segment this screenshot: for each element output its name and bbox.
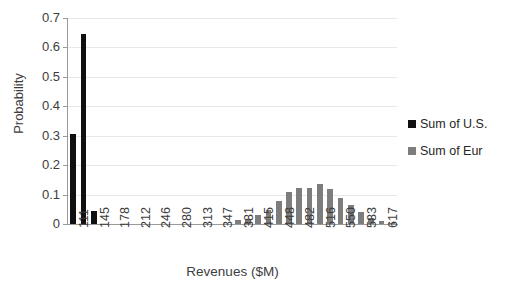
legend-swatch-icon bbox=[408, 147, 416, 155]
bar bbox=[81, 34, 87, 224]
x-axis-tick-label: 246 bbox=[160, 207, 173, 228]
y-axis-tick-label: 0.7 bbox=[4, 11, 60, 24]
y-axis-tick-label: 0 bbox=[4, 217, 60, 230]
x-axis-tick-label: 482 bbox=[304, 207, 317, 228]
bar bbox=[317, 184, 323, 224]
x-axis-tick-label: 280 bbox=[181, 207, 194, 228]
bar bbox=[338, 198, 344, 224]
legend-item[interactable]: Sum of U.S. bbox=[408, 117, 487, 131]
bar bbox=[358, 212, 364, 224]
bar-series-container bbox=[68, 18, 397, 224]
x-axis-tick-label: 347 bbox=[222, 207, 235, 228]
x-axis-tick-label: 212 bbox=[140, 207, 153, 228]
bar bbox=[70, 134, 76, 224]
x-axis-tick-label: 448 bbox=[284, 207, 297, 228]
x-axis-tick-label: 313 bbox=[202, 207, 215, 228]
x-axis-tick-label: 617 bbox=[387, 207, 400, 228]
y-axis-tick-label: 0.1 bbox=[4, 188, 60, 201]
x-axis-tick-label: 111 bbox=[78, 209, 91, 228]
x-axis-tick-label: 516 bbox=[325, 207, 338, 228]
x-axis-tick-labels: 1111451782122462803133473814154484825165… bbox=[68, 226, 397, 268]
y-axis-tickmark bbox=[63, 224, 68, 225]
bar bbox=[379, 221, 385, 224]
x-axis-title: Revenues ($M) bbox=[68, 264, 397, 279]
y-axis-tick-labels: 0.70.60.50.40.30.20.10 bbox=[0, 0, 60, 291]
bar bbox=[255, 215, 261, 224]
x-axis-tick-label: 415 bbox=[263, 207, 276, 228]
legend-swatch-icon bbox=[408, 120, 416, 128]
histogram-chart: 0.70.60.50.40.30.20.10 Probability 11114… bbox=[0, 0, 511, 291]
legend-label: Sum of U.S. bbox=[420, 117, 487, 131]
bar bbox=[296, 188, 302, 224]
bar bbox=[91, 211, 97, 224]
legend-item[interactable]: Sum of Eur bbox=[408, 144, 487, 158]
x-axis-tick-label: 550 bbox=[345, 207, 358, 228]
x-axis-tick-label: 381 bbox=[243, 207, 256, 228]
chart-legend: Sum of U.S.Sum of Eur bbox=[408, 117, 487, 171]
y-axis-title: Probability bbox=[11, 34, 26, 174]
bar bbox=[276, 201, 282, 224]
legend-label: Sum of Eur bbox=[420, 144, 483, 158]
x-axis-tick-label: 178 bbox=[119, 207, 132, 228]
bar bbox=[235, 220, 241, 224]
x-axis-tick-label: 583 bbox=[366, 207, 379, 228]
x-axis-tick-label: 145 bbox=[99, 207, 112, 228]
